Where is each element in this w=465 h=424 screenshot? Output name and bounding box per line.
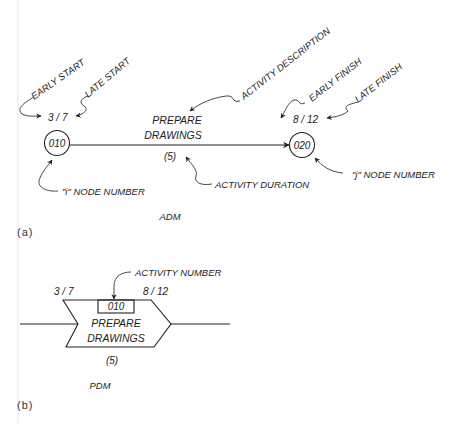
late-start-arrow-icon: [76, 96, 88, 116]
panel-label-a: (a): [17, 226, 33, 238]
panel-label-b: (b): [17, 399, 33, 411]
activity-duration-arrow-icon: [186, 157, 212, 185]
pdm-finish-times: 8 / 12: [143, 286, 168, 297]
activity-number-arrow-icon: [114, 272, 131, 299]
adm-caption: ADM: [158, 211, 180, 222]
activity-duration: (5): [164, 151, 176, 162]
pdm-description-line2: DRAWINGS: [87, 332, 145, 344]
j-node-label: "j" NODE NUMBER: [352, 169, 435, 180]
i-node-number: 010: [49, 138, 66, 149]
early-start-arrow-icon: [20, 97, 41, 116]
adm-pdm-diagram: EARLY START LATE START ACTIVITY DESCRIPT…: [0, 0, 465, 424]
adm-section: EARLY START LATE START ACTIVITY DESCRIPT…: [17, 25, 435, 238]
i-node-label: "i" NODE NUMBER: [62, 186, 145, 197]
activity-duration-callout: ACTIVITY DURATION: [214, 179, 309, 190]
activity-description-arrow-icon: [190, 96, 240, 111]
i-node-arrow-icon: [39, 160, 58, 191]
late-start-callout: LATE START: [82, 54, 133, 99]
pdm-activity-number: 010: [108, 301, 125, 312]
j-node-arrow-icon: [315, 158, 343, 173]
i-node-times: 3 / 7: [48, 112, 68, 123]
pdm-caption: PDM: [89, 380, 110, 391]
j-node-number: 020: [294, 140, 311, 151]
early-start-callout: EARLY START: [29, 56, 88, 102]
activity-number-callout: ACTIVITY NUMBER: [134, 267, 222, 278]
late-finish-arrow-icon: [327, 102, 358, 118]
activity-description-line2: DRAWINGS: [144, 129, 202, 141]
late-finish-callout: LATE FINISH: [352, 61, 404, 105]
activity-description-line1: PREPARE: [152, 114, 202, 126]
j-node-times: 8 / 12: [293, 114, 318, 125]
pdm-start-times: 3 / 7: [54, 286, 74, 297]
pdm-duration: (5): [106, 355, 118, 366]
pdm-description-line1: PREPARE: [91, 317, 141, 329]
pdm-section: ACTIVITY NUMBER 3 / 7 8 / 12 010 PREPARE…: [17, 267, 230, 411]
